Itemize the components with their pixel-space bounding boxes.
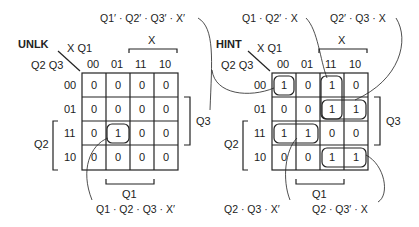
row-header: 00 <box>64 79 76 91</box>
bracket-label-q1: Q1 <box>122 188 137 200</box>
kmap-cell: 1 <box>344 97 368 121</box>
kmap-cell: 1 <box>320 97 344 121</box>
bracket-label-x: X <box>338 34 345 46</box>
kmap-cell: 0 <box>320 121 344 145</box>
kmap-cell: 0 <box>296 145 320 169</box>
col-header: 00 <box>277 58 289 70</box>
term-label: Q2 · Q3′ · X <box>312 203 368 215</box>
kmap-cell: 0 <box>106 97 130 121</box>
term-label: Q1′ · Q2′ · Q3′ · X′ <box>100 12 185 24</box>
term-label: Q2′ · Q3 · X <box>330 12 386 24</box>
col-vars-label: X Q1 <box>257 42 282 54</box>
row-header: 01 <box>254 103 266 115</box>
row-header: 00 <box>254 79 266 91</box>
row-header: 10 <box>64 151 76 163</box>
col-header: 00 <box>87 58 99 70</box>
col-header: 11 <box>325 58 336 70</box>
col-header: 01 <box>301 58 313 70</box>
kmap-cell: 1 <box>106 121 130 145</box>
bracket-label-q3: Q3 <box>196 115 211 127</box>
row-vars-label: Q2 Q3 <box>31 59 63 71</box>
bracket-label-q2: Q2 <box>224 138 239 150</box>
kmap-cell: 0 <box>296 97 320 121</box>
kmap-cell: 0 <box>296 73 320 97</box>
kmap-cell: 0 <box>130 97 154 121</box>
row-header: 11 <box>254 127 265 139</box>
kmap-cell: 0 <box>130 145 154 169</box>
kmap-cell: 0 <box>154 97 178 121</box>
kmap-cell: 0 <box>272 145 296 169</box>
kmap-cell: 1 <box>272 73 296 97</box>
col-header: 10 <box>349 58 361 70</box>
bracket-label-q2: Q2 <box>34 138 49 150</box>
kmap-cell: 1 <box>296 121 320 145</box>
bracket-label-q1: Q1 <box>312 188 327 200</box>
kmap-cell: 0 <box>154 73 178 97</box>
col-header: 11 <box>135 58 146 70</box>
bracket-label-q3: Q3 <box>386 115 401 127</box>
kmap-cell: 0 <box>154 121 178 145</box>
row-header: 01 <box>64 103 76 115</box>
kmap-cell: 1 <box>272 121 296 145</box>
kmap-cell: 1 <box>344 145 368 169</box>
col-vars-label: X Q1 <box>67 42 92 54</box>
row-vars-label: Q2 Q3 <box>221 59 253 71</box>
kmap-cell: 0 <box>106 73 130 97</box>
kmap-cell: 0 <box>82 121 106 145</box>
col-header: 01 <box>111 58 123 70</box>
kmap-cell: 0 <box>344 73 368 97</box>
bracket-label-x: X <box>148 34 155 46</box>
kmap-cell: 0 <box>82 145 106 169</box>
col-header: 10 <box>159 58 171 70</box>
kmap-cell: 0 <box>344 121 368 145</box>
kmap-cell: 0 <box>106 145 130 169</box>
kmap-cell: 0 <box>272 97 296 121</box>
row-header: 11 <box>64 127 75 139</box>
kmap-cell: 0 <box>130 121 154 145</box>
term-label: Q2 · Q3 · X′ <box>224 203 280 215</box>
map-title-hint: HINT <box>216 38 242 50</box>
map-title-unlk: UNLK <box>18 38 49 50</box>
kmap-cell: 0 <box>82 73 106 97</box>
kmap-cell: 0 <box>82 97 106 121</box>
term-label: Q1 · Q2′ · X <box>242 12 298 24</box>
kmap-cell: 1 <box>320 73 344 97</box>
row-header: 10 <box>254 151 266 163</box>
kmap-cell: 0 <box>130 73 154 97</box>
kmap-cell: 1 <box>320 145 344 169</box>
kmap-cell: 0 <box>154 145 178 169</box>
term-label: Q1 · Q2 · Q3 · X′ <box>96 203 175 215</box>
